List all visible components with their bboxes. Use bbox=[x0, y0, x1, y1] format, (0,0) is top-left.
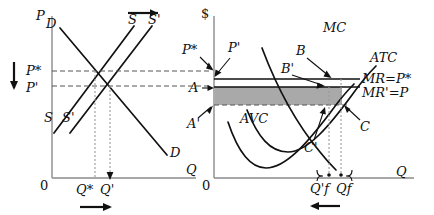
firm-quantity-initial-dot bbox=[339, 173, 343, 177]
market-price-initial-label: P* bbox=[25, 63, 42, 78]
market-quantity-new-label: Q' bbox=[100, 182, 114, 197]
demand-curve bbox=[60, 28, 167, 155]
firm-price-new-label: P' bbox=[227, 40, 240, 55]
firm-quantity-new-dot bbox=[327, 173, 331, 177]
price-new-pointer bbox=[215, 58, 231, 77]
firm-equilibrium-new-label: B' bbox=[280, 61, 294, 76]
firm-x-axis-label: Q bbox=[396, 164, 407, 179]
firm-quantity-brace-left bbox=[317, 170, 323, 181]
economics-diagram-figure: P Q 0 D D S S S' S' P* P' bbox=[0, 0, 434, 215]
firm-price-initial-label: P* bbox=[181, 42, 198, 57]
firm-quantity-new-label: Q'f bbox=[310, 181, 331, 196]
marginal-revenue-new-label: MR'=P bbox=[361, 85, 409, 100]
firm-atc-initial-label: C bbox=[360, 119, 370, 134]
cost-new-pointer bbox=[198, 106, 213, 119]
firm-quantity-change-arrow bbox=[310, 202, 340, 210]
marginal-cost-label: MC bbox=[322, 20, 346, 35]
firm-panel: $ Q 0 MR=P* MR'=P MC ATC AVC P* bbox=[181, 6, 414, 210]
market-y-axis-label: P bbox=[35, 8, 45, 23]
firm-cost-initial-label: A bbox=[188, 80, 198, 95]
atc-initial-pointer bbox=[344, 105, 360, 120]
supply-label-bottom: S bbox=[44, 110, 53, 125]
market-quantity-initial-label: Q* bbox=[76, 182, 94, 197]
market-panel: P Q 0 D D S S S' S' P* P' bbox=[10, 8, 210, 211]
price-initial-pointer bbox=[200, 57, 214, 71]
supply-label-top: S bbox=[128, 12, 137, 27]
equilibrium-initial-pointer bbox=[307, 58, 332, 78]
market-price-new-label: P' bbox=[25, 80, 38, 95]
quantity-change-arrow bbox=[80, 203, 112, 211]
firm-equilibrium-initial-label: B bbox=[295, 43, 306, 58]
firm-quantity-initial-label: Qf bbox=[336, 181, 354, 196]
firm-origin-label: 0 bbox=[202, 178, 210, 193]
supply-shifted-curve bbox=[70, 26, 152, 133]
firm-y-axis-label: $ bbox=[201, 6, 209, 21]
firm-cost-new-label: A' bbox=[186, 116, 200, 131]
demand-label-top: D bbox=[45, 16, 57, 31]
demand-label-bottom: D bbox=[169, 145, 181, 160]
firm-quantity-brace-right bbox=[346, 170, 352, 181]
cost-initial-pointer bbox=[202, 85, 214, 91]
price-change-arrow bbox=[10, 62, 18, 90]
average-total-cost-label: ATC bbox=[369, 50, 397, 65]
market-quantity-new-arrowhead bbox=[107, 172, 114, 180]
profit-rectangle bbox=[215, 87, 342, 105]
firm-atc-new-label: C' bbox=[304, 140, 318, 155]
supply-shifted-label-bottom: S' bbox=[62, 110, 74, 125]
market-origin-label: 0 bbox=[40, 178, 48, 193]
average-variable-cost-label: AVC bbox=[239, 111, 268, 126]
market-x-axis-label: Q bbox=[186, 162, 197, 177]
